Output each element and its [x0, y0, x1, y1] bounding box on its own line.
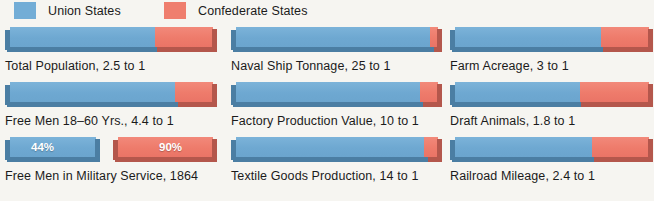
legend-label-union: Union States — [48, 4, 121, 18]
bar-graphic — [5, 27, 213, 53]
bar-graphic — [450, 137, 649, 163]
bar-graphic — [450, 27, 649, 53]
bar-right-bevel — [648, 29, 653, 49]
bar-cell-free-men-in-military-service: 44% 90% Free Men in Military Service, 18… — [5, 137, 213, 183]
bar-grid: Total Population, 2.5 to 1 Naval Ship To… — [0, 24, 654, 201]
bar-graphic — [5, 82, 213, 108]
bar-bottom-bevel-red — [603, 47, 653, 52]
bar-right-bevel — [648, 139, 653, 159]
confederate-percent-bar: 90% — [113, 137, 217, 157]
bar-cell-farm-acreage: Farm Acreage, 3 to 1 — [450, 27, 649, 73]
union-segment — [455, 137, 592, 157]
union-segment — [10, 27, 155, 47]
legend-item-union: Union States — [14, 2, 121, 19]
bar-right-bevel — [437, 84, 442, 104]
bar-caption: Free Men 18–60 Yrs., 4.4 to 1 — [5, 114, 213, 128]
bar-cell-factory-production-value: Factory Production Value, 10 to 1 — [231, 82, 438, 128]
bar-graphic — [231, 82, 438, 108]
bar-caption: Factory Production Value, 10 to 1 — [231, 114, 438, 128]
legend-label-confederate: Confederate States — [198, 4, 308, 18]
bar-caption: Naval Ship Tonnage, 25 to 1 — [231, 59, 438, 73]
bar-right-bevel — [648, 84, 653, 104]
bar-cell-total-population: Total Population, 2.5 to 1 — [5, 27, 213, 73]
bar-right-bevel — [212, 84, 217, 104]
confederate-segment — [155, 27, 213, 47]
union-segment — [455, 27, 601, 47]
union-segment — [10, 82, 175, 102]
blue-swatch-icon — [14, 2, 36, 19]
bar-caption: Textile Goods Production, 14 to 1 — [231, 169, 438, 183]
bar-faces — [10, 82, 213, 102]
bar-cell-railroad-mileage: Railroad Mileage, 2.4 to 1 — [450, 137, 649, 183]
bar-faces — [455, 27, 649, 47]
civil-war-resources-infographic: { "legend": { "items": [ { "label": "Uni… — [0, 0, 654, 201]
percent-bar-bottom-bevel — [7, 157, 100, 162]
confederate-segment — [424, 137, 438, 157]
bar-bottom-bevel — [452, 47, 653, 52]
bar-caption: Free Men in Military Service, 1864 — [5, 169, 213, 183]
bar-faces — [236, 82, 438, 102]
bar-faces — [455, 82, 649, 102]
union-segment — [236, 137, 424, 157]
bar-faces — [236, 137, 438, 157]
bar-bottom-bevel — [233, 102, 442, 107]
bar-bottom-bevel-red — [157, 47, 217, 52]
bar-caption: Railroad Mileage, 2.4 to 1 — [450, 169, 649, 183]
union-segment — [455, 82, 580, 102]
bar-faces — [455, 137, 649, 157]
bar-bottom-bevel-red — [594, 157, 653, 162]
percent-bar-right-bevel — [212, 139, 217, 159]
bar-caption: Farm Acreage, 3 to 1 — [450, 59, 649, 73]
bar-faces — [10, 27, 213, 47]
bar-bottom-bevel — [7, 102, 217, 107]
bar-cell-naval-ship-tonnage: Naval Ship Tonnage, 25 to 1 — [231, 27, 438, 73]
bar-bottom-bevel — [233, 47, 442, 52]
percent-bar-right-bevel — [95, 139, 100, 159]
red-swatch-icon — [164, 2, 186, 19]
confederate-segment — [601, 27, 650, 47]
bar-cell-textile-goods-production: Textile Goods Production, 14 to 1 — [231, 137, 438, 183]
confederate-percent-label: 90% — [159, 137, 182, 157]
confederate-segment — [580, 82, 649, 102]
confederate-segment — [592, 137, 649, 157]
union-segment — [236, 27, 430, 47]
legend-item-confederate: Confederate States — [164, 2, 308, 19]
bar-right-bevel — [212, 29, 217, 49]
union-percent-bar: 44% — [5, 137, 100, 157]
bar-right-bevel — [437, 29, 442, 49]
bar-bottom-bevel — [7, 47, 217, 52]
union-segment — [236, 82, 420, 102]
percent-bar-bottom-bevel — [115, 157, 217, 162]
bar-faces — [236, 27, 438, 47]
bar-bottom-bevel — [233, 157, 442, 162]
bar-caption: Total Population, 2.5 to 1 — [5, 59, 213, 73]
confederate-segment — [175, 82, 213, 102]
union-percent-label: 44% — [31, 137, 54, 157]
bar-cell-free-men-18-60: Free Men 18–60 Yrs., 4.4 to 1 — [5, 82, 213, 128]
bar-graphic — [450, 82, 649, 108]
legend: Union States Confederate States — [0, 0, 654, 24]
percent-pair-graphic: 44% 90% — [5, 137, 213, 163]
bar-cell-draft-animals: Draft Animals, 1.8 to 1 — [450, 82, 649, 128]
bar-bottom-bevel — [452, 102, 653, 107]
bar-right-bevel — [437, 139, 442, 159]
bar-bottom-bevel — [452, 157, 653, 162]
bar-caption: Draft Animals, 1.8 to 1 — [450, 114, 649, 128]
bar-graphic — [231, 27, 438, 53]
bar-graphic — [231, 137, 438, 163]
confederate-segment — [420, 82, 438, 102]
bar-bottom-bevel-red — [581, 102, 653, 107]
